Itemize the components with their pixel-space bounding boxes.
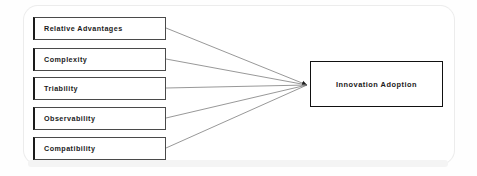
node-compatibility[interactable]: Compatibility xyxy=(33,137,166,160)
connector-observability-to-innovation-adoption xyxy=(166,85,307,118)
diagram-screenshot: Relative Advantages Complexity Triabilit… xyxy=(0,0,477,176)
node-label-triability: Triability xyxy=(35,84,78,93)
node-innovation-adoption[interactable]: Innovation Adoption xyxy=(310,61,443,107)
node-label-innovation-adoption: Innovation Adoption xyxy=(336,80,417,89)
node-observability[interactable]: Observability xyxy=(33,107,166,130)
node-triability[interactable]: Triability xyxy=(33,77,166,100)
connector-compatibility-to-innovation-adoption xyxy=(166,85,307,148)
node-complexity[interactable]: Complexity xyxy=(33,48,166,71)
node-label-complexity: Complexity xyxy=(35,55,87,64)
node-relative-advantages[interactable]: Relative Advantages xyxy=(33,17,166,40)
node-label-compatibility: Compatibility xyxy=(35,144,95,153)
connector-relative-advantages-to-innovation-adoption xyxy=(166,28,307,85)
node-label-observability: Observability xyxy=(35,114,95,123)
node-label-relative-advantages: Relative Advantages xyxy=(35,24,123,33)
connector-triability-to-innovation-adoption xyxy=(166,85,307,88)
connector-complexity-to-innovation-adoption xyxy=(166,59,307,85)
